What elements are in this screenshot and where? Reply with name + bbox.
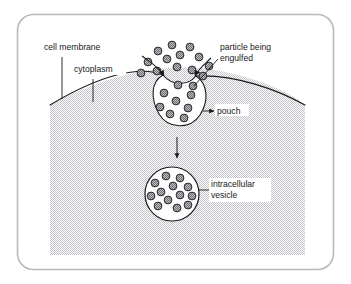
particle [195, 53, 203, 61]
particle [172, 97, 180, 105]
label-particle-being-engulfed-line1: particle being [220, 42, 271, 52]
particle [154, 202, 162, 210]
label-cytoplasm: cytoplasm [74, 64, 113, 74]
particle [173, 63, 181, 71]
particle [188, 192, 196, 200]
particle [173, 204, 181, 212]
particle [186, 43, 194, 51]
label-intracellular-vesicle-line1: intracellular [211, 179, 255, 189]
particle [160, 89, 168, 97]
particle [188, 66, 196, 74]
particle [156, 103, 164, 111]
particle [184, 201, 192, 209]
particle [176, 51, 184, 59]
particle [151, 179, 159, 187]
particle [174, 81, 182, 89]
figure-root: cell membrane cytoplasm particle being e… [0, 0, 351, 284]
particle [169, 182, 177, 190]
particle [164, 196, 172, 204]
particle [176, 191, 184, 199]
particle [184, 104, 192, 112]
particle [162, 172, 170, 180]
particle-being-engulfed [189, 82, 197, 90]
particle [163, 55, 171, 63]
label-cell-membrane: cell membrane [44, 42, 101, 52]
particle [180, 114, 188, 122]
particle [187, 91, 195, 99]
endocytosis-diagram: cell membrane cytoplasm particle being e… [0, 0, 351, 284]
particle [184, 183, 192, 191]
label-particle-being-engulfed-line2: engulfed [220, 53, 253, 63]
particle [168, 41, 176, 49]
particle [154, 47, 162, 55]
particle [137, 69, 145, 77]
label-pouch: pouch [217, 106, 241, 116]
particle [147, 192, 155, 200]
particle [157, 188, 165, 196]
particle [166, 110, 174, 118]
label-intracellular-vesicle-line2: vesicle [211, 190, 237, 200]
particle [176, 174, 184, 182]
